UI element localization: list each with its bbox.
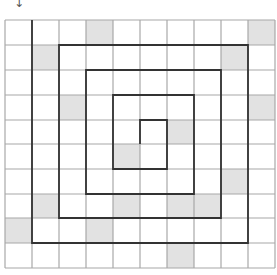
shaded-cell	[167, 194, 194, 218]
shaded-cell	[221, 45, 248, 70]
spiral-grid-diagram	[0, 0, 277, 275]
shaded-cell	[86, 20, 113, 45]
shaded-cell	[221, 169, 248, 194]
shaded-cell	[5, 218, 32, 243]
shaded-cell	[32, 45, 59, 70]
shaded-cell	[86, 218, 113, 243]
shaded-cell	[59, 95, 86, 120]
shaded-cell	[167, 243, 194, 268]
shaded-cell	[167, 120, 194, 144]
shaded-cell	[248, 95, 275, 120]
shaded-cell	[113, 194, 140, 218]
shaded-cell	[248, 20, 275, 45]
shaded-cell	[194, 194, 221, 218]
shaded-cell	[113, 144, 140, 169]
shaded-cell	[32, 194, 59, 218]
